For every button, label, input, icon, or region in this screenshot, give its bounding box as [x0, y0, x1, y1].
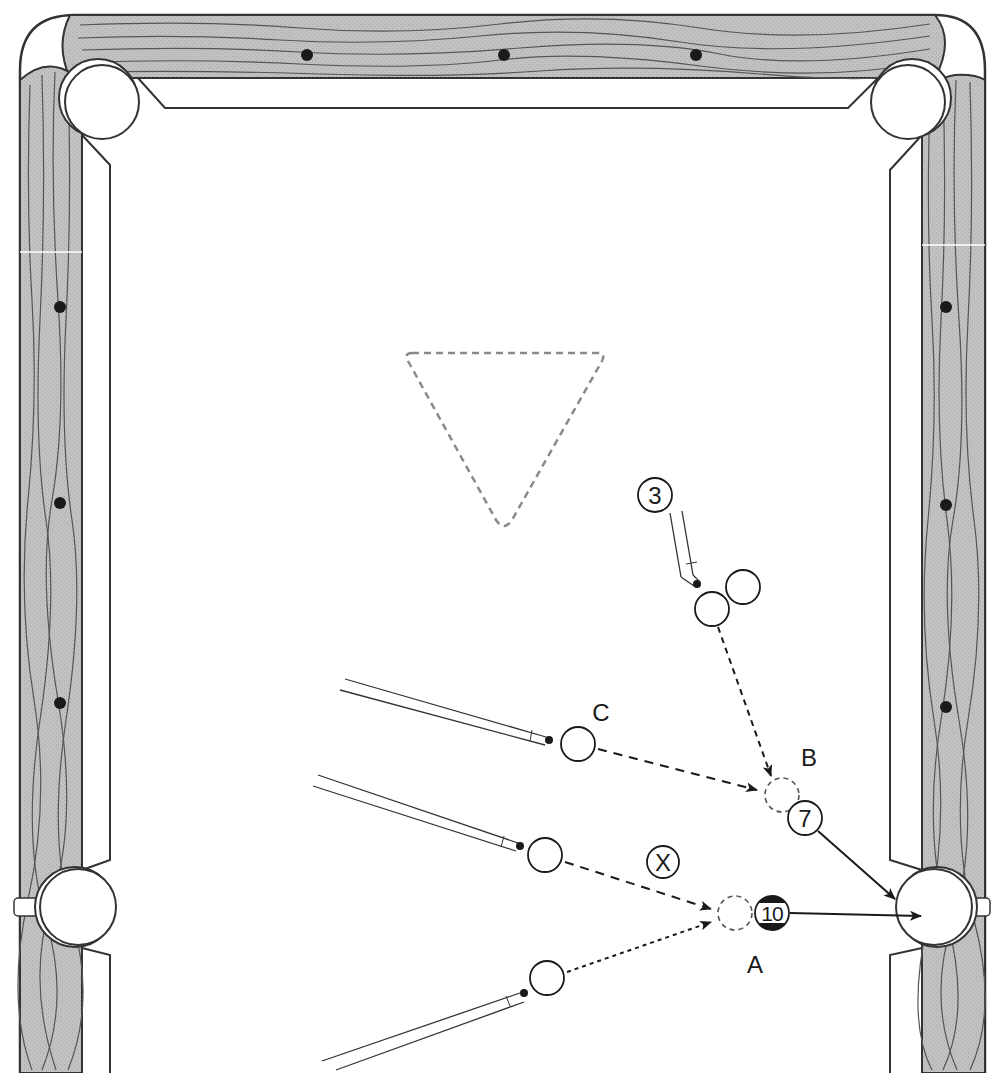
left-diamond	[54, 301, 66, 313]
left-diamond	[54, 497, 66, 509]
top-diamond	[301, 49, 313, 61]
top-right-corner-pocket	[871, 59, 951, 139]
top-left-corner-pocket	[59, 59, 139, 139]
ball-3: 3	[638, 478, 672, 512]
object-ball-top	[726, 570, 760, 604]
ball-10-label: 10	[761, 902, 783, 925]
ball-x: X	[647, 846, 679, 878]
left-diamond	[54, 697, 66, 709]
right-diamond	[940, 301, 952, 313]
cue-ball-c	[561, 727, 595, 761]
top-diamond	[498, 49, 510, 61]
right-diamond	[940, 499, 952, 511]
cue-ball-top	[695, 592, 729, 626]
top-rail	[63, 15, 946, 79]
top-diamond	[690, 49, 702, 61]
ball-3-label: 3	[648, 482, 661, 509]
cue-ball-middle	[528, 838, 562, 872]
ball-7: 7	[788, 801, 822, 835]
right-diamond	[940, 701, 952, 713]
position-c-label: C	[592, 699, 609, 726]
cue-ball-bottom	[530, 961, 564, 995]
ball-x-label: X	[655, 849, 671, 876]
position-b-label: B	[801, 744, 817, 771]
ball-7-label: 7	[798, 805, 811, 832]
position-a-label: A	[747, 951, 763, 978]
pool-table-diagram: 3 C X A 10 B	[0, 0, 1000, 1073]
ball-10: 10	[753, 896, 791, 930]
